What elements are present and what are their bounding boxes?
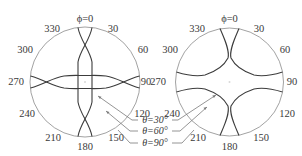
left-label-270: 270 <box>8 76 24 87</box>
legend-theta-60: θ=60° <box>142 125 168 136</box>
polar-diagram-figure: ϕ=0 30 60 90 120 150 180 210 240 270 300… <box>0 0 302 156</box>
legend-theta-30: θ=30° <box>142 114 168 125</box>
left-label-30: 30 <box>108 23 119 34</box>
left-label-210: 210 <box>45 132 61 143</box>
right-label-300: 300 <box>162 44 178 55</box>
legend-theta-90: θ=90° <box>142 137 168 148</box>
left-label-240: 240 <box>19 108 35 119</box>
right-label-150: 150 <box>253 132 269 143</box>
right-label-30: 30 <box>254 23 265 34</box>
right-label-60: 60 <box>280 44 291 55</box>
left-label-300: 300 <box>17 44 33 55</box>
right-label-0: ϕ=0 <box>221 13 238 24</box>
right-center-dot <box>229 81 231 83</box>
left-label-60: 60 <box>138 44 149 55</box>
left-center-dot <box>84 81 86 83</box>
left-label-330: 330 <box>44 23 60 34</box>
right-label-270: 270 <box>150 76 166 87</box>
right-label-180: 180 <box>222 141 238 152</box>
right-label-120: 120 <box>279 108 295 119</box>
right-label-90: 90 <box>287 76 298 87</box>
pointer-left-theta30 <box>98 96 138 120</box>
right-label-210: 210 <box>190 132 206 143</box>
left-label-180: 180 <box>77 141 93 152</box>
left-label-0: ϕ=0 <box>77 13 94 24</box>
right-label-330: 330 <box>189 23 205 34</box>
